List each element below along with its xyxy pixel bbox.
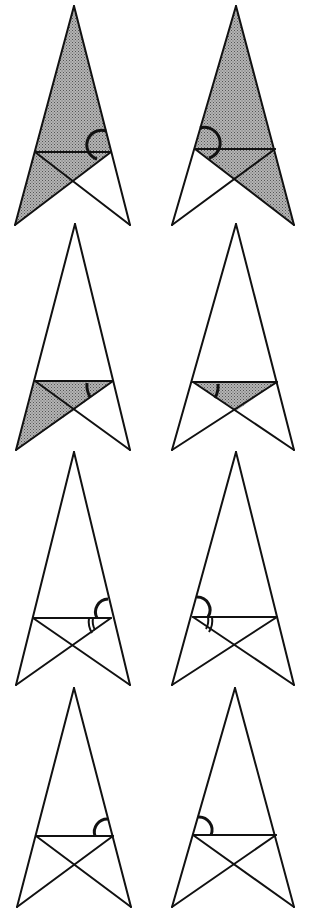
double-angle-mark-icon [93,618,95,630]
figure-1-left [15,6,130,225]
figure-3-left [16,452,130,685]
figure-4-left [17,688,131,907]
angle-mark-icon [94,819,108,836]
angle-mark-icon [198,817,212,835]
angle-mark-icon [197,597,210,617]
double-angle-mark-icon [206,617,208,629]
figure-4-right [172,688,294,907]
figure-1-right [172,6,294,225]
angle-mark-icon [96,599,108,618]
geometry-diagram [0,0,317,917]
figure-3-right [172,452,294,685]
double-angle-mark-icon [89,618,92,633]
shaded-region [15,6,111,225]
figure-2-left [16,224,130,450]
figure-2-right [172,224,294,450]
